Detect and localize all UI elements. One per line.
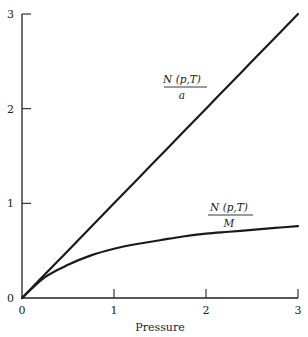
y-tick-label: 3 [7,8,14,21]
annotation-series-m: N (p,T) M [208,201,253,229]
x-axis-title: Pressure [135,321,184,334]
x-ticks: 0123 [19,289,302,317]
x-tick-label: 0 [19,304,26,317]
x-tick-label: 2 [203,304,210,317]
series-line-1 [22,226,298,298]
y-tick-label: 1 [7,197,14,210]
y-tick-label: 0 [7,292,14,305]
y-tick-label: 2 [7,103,14,116]
annotation-a-numerator: N (p,T) [162,73,201,85]
x-tick-label: 3 [295,304,302,317]
x-tick-label: 1 [111,304,118,317]
series-lines [22,14,298,298]
annotation-series-a: N (p,T) a [162,73,207,101]
annotation-a-denominator: a [179,89,185,101]
y-ticks: 0123 [7,8,31,305]
annotation-m-numerator: N (p,T) [209,201,248,213]
annotation-m-denominator: M [223,217,235,229]
chart: 0123 0123 Pressure N (p,T) a N (p,T) M [0,0,308,337]
series-line-0 [22,14,298,298]
